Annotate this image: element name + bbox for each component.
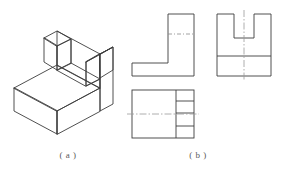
technical-drawing-figure: ( a ) ( b )	[0, 0, 282, 177]
base-left-face	[14, 88, 57, 134]
caption-orthographic: ( b )	[178, 150, 218, 160]
left-prong-top-face	[44, 31, 71, 46]
isometric-view	[14, 31, 113, 134]
back-wall-inner-face	[57, 31, 100, 88]
caption-pictorial: ( a )	[48, 150, 88, 160]
right-prong-right-face	[100, 47, 113, 78]
left-prong-front-face	[57, 39, 71, 70]
back-wall-right-face	[100, 47, 113, 111]
base-right-face	[57, 88, 100, 134]
left-prong-left-face	[44, 38, 57, 70]
side-view-outline	[132, 14, 194, 76]
orthographic-side-view	[132, 14, 194, 76]
drawing-canvas	[0, 0, 282, 177]
